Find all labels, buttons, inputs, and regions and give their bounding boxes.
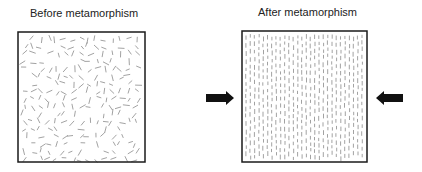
- random-grains: [20, 35, 143, 162]
- metamorphism-diagram: [0, 0, 422, 172]
- aligned-grains: [246, 34, 363, 161]
- compression-arrow-right-icon: [376, 91, 403, 105]
- compression-arrow-left-icon: [206, 91, 234, 105]
- after-rock-box: [242, 31, 367, 162]
